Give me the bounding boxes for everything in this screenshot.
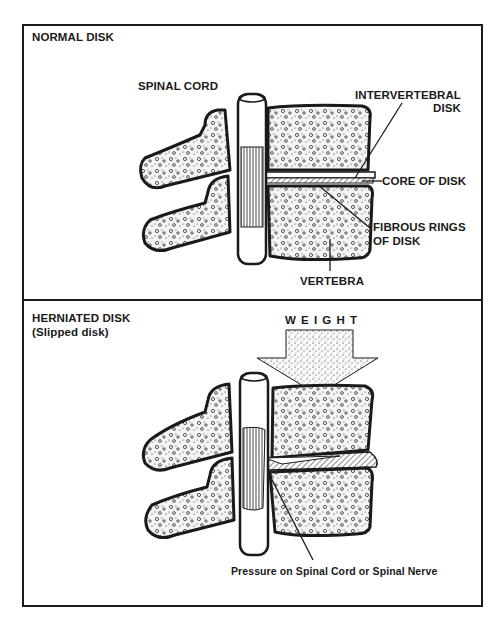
label-intervertebral-disk-line2: DISK (350, 102, 461, 115)
label-vertebra: VERTEBRA (300, 275, 364, 288)
label-fibrous-rings-line1: FIBROUS RINGS (373, 221, 466, 234)
herniated-disk-drawing (143, 330, 378, 560)
panel-subtitle-slipped-disk: (Slipped disk) (32, 326, 109, 339)
label-pressure-on-spinal-cord: Pressure on Spinal Cord or Spinal Nerve (231, 565, 437, 578)
label-weight: W E I G H T (285, 314, 358, 327)
label-spinal-cord: SPINAL CORD (138, 80, 218, 93)
label-core-of-disk: CORE OF DISK (382, 175, 466, 188)
panel-title-herniated-disk: HERNIATED DISK (32, 312, 130, 325)
normal-disk-drawing (141, 94, 402, 271)
label-intervertebral-disk-line1: INTERVERTEBRAL (350, 89, 461, 102)
panel-title-normal-disk: NORMAL DISK (32, 31, 114, 44)
label-fibrous-rings-line2: OF DISK (373, 235, 420, 248)
